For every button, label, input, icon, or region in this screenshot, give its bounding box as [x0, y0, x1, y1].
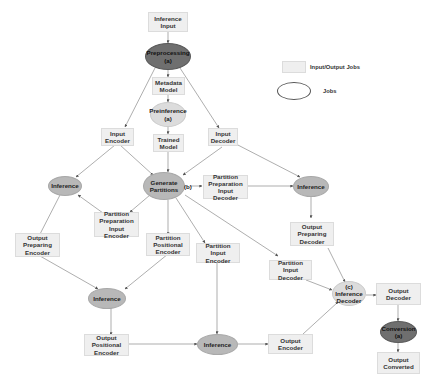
node-inference-mid: Inference [88, 288, 126, 309]
node-conversion: Conversion (a) [380, 321, 417, 343]
node-preprocessing: Preprocessing (a) [145, 43, 191, 70]
node-input-encoder: Input Encoder [101, 128, 134, 146]
node-metadata-model: Metadata Model [152, 77, 185, 95]
node-preinference: Preinference (a) [150, 102, 186, 127]
node-output-encoder: Output Encoder [268, 334, 313, 354]
node-inference-bottom: Inference [197, 334, 238, 355]
node-trained-model: Trained Model [153, 134, 184, 152]
node-output-preparing-decoder: Output Preparing Decoder [290, 222, 334, 246]
node-generate-partitions: Generate Partitions [143, 172, 185, 200]
node-partition-input-decoder: Partition Input Decoder [269, 260, 312, 280]
node-output-positional-encoder: Output Positional Encoder [84, 334, 129, 356]
node-generate-partitions-tag: (b) [184, 183, 192, 190]
legend-jobs-label: Jobs [323, 88, 337, 94]
node-output-decoder: Output Decoder [376, 283, 421, 305]
node-inference-decoder: (c) Inference Decoder [332, 281, 366, 306]
node-output-preparing-encoder: Output Preparing Encoder [15, 233, 60, 257]
node-inference-right: Inference [293, 176, 329, 197]
legend-jobs-swatch [277, 82, 311, 100]
legend-io-swatch [282, 61, 306, 73]
node-inference-input: Inference Input [148, 12, 188, 32]
node-input-decoder: Input Decoder [208, 128, 238, 146]
node-partition-prep-input-decoder: Partition Preparation Input Decoder [203, 175, 248, 199]
node-output-converted: Output Converted [377, 352, 420, 374]
workflow-diagram: Input/Output Jobs Jobs Inference Input P… [0, 0, 436, 387]
node-partition-prep-input-encoder: Partition Preparation Input Encoder [94, 212, 139, 237]
node-inference-left: Inference [48, 176, 82, 196]
node-partition-input-encoder: Partition Input Encoder [196, 243, 240, 263]
node-partition-positional-encoder: Partition Positional Encoder [146, 233, 190, 256]
legend-io-label: Input/Output Jobs [310, 64, 360, 70]
